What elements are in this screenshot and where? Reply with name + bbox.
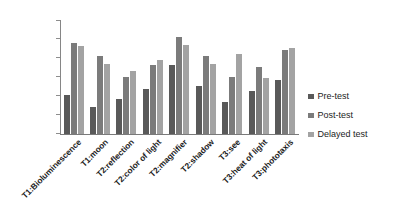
bar xyxy=(282,50,288,134)
bar xyxy=(143,89,149,134)
bar xyxy=(236,54,242,134)
bar xyxy=(150,65,156,134)
bar-group xyxy=(169,20,189,134)
bar xyxy=(289,48,295,134)
bar xyxy=(229,77,235,135)
bar xyxy=(196,86,202,134)
legend-swatch-delayed-test xyxy=(308,132,314,138)
x-category-label: T1:Bioluminescence xyxy=(20,137,83,200)
chart-legend: Pre-test Post-test Delayed test xyxy=(308,88,404,145)
bar-group xyxy=(275,20,295,134)
bar-group xyxy=(249,20,269,134)
bar xyxy=(275,80,281,134)
legend-label-delayed-test: Delayed test xyxy=(318,130,368,139)
bar xyxy=(183,45,189,134)
legend-label-pre-test: Pre-test xyxy=(318,92,350,101)
legend-swatch-pre-test xyxy=(308,94,314,100)
bar xyxy=(249,91,255,134)
legend-item-0[interactable]: Pre-test xyxy=(308,88,404,105)
bar xyxy=(71,43,77,134)
bar-group xyxy=(64,20,84,134)
legend-item-2[interactable]: Delayed test xyxy=(308,126,404,143)
bar xyxy=(210,64,216,134)
bar xyxy=(104,64,110,134)
bar-group xyxy=(196,20,216,134)
bar xyxy=(176,37,182,134)
bar xyxy=(222,102,228,134)
bar xyxy=(263,78,269,134)
bar xyxy=(78,46,84,134)
bar xyxy=(123,77,129,134)
bar xyxy=(64,95,70,134)
legend-label-post-test: Post-test xyxy=(318,111,354,120)
bar-chart-figure: 32.521.510.50 T1:BioluminescenceT1:moonT… xyxy=(0,0,406,223)
bar-group xyxy=(90,20,110,134)
bar-group xyxy=(222,20,242,134)
bar xyxy=(157,60,163,134)
x-category-label: T3:see xyxy=(217,137,242,162)
bar-group xyxy=(116,20,136,134)
bar xyxy=(256,67,262,134)
figure-caption xyxy=(0,214,406,223)
bar xyxy=(116,99,122,134)
bar xyxy=(203,56,209,134)
bar xyxy=(90,107,96,134)
bar xyxy=(169,65,175,134)
bar-group xyxy=(143,20,163,134)
bar xyxy=(130,71,136,134)
bar xyxy=(97,56,103,134)
legend-item-1[interactable]: Post-test xyxy=(308,107,404,124)
legend-swatch-post-test xyxy=(308,113,314,119)
plot-area xyxy=(60,20,298,134)
